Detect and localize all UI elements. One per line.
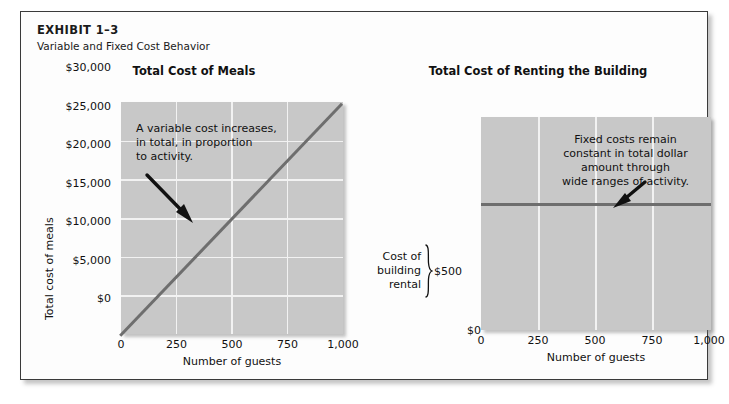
y-axis-label-meals: Total cost of meals <box>43 217 56 320</box>
curly-brace-icon <box>424 244 433 298</box>
annotation-variable-cost: A variable cost increases, in total, in … <box>136 122 286 164</box>
x-tick-rent-1000: 1,000 <box>693 334 725 347</box>
plot-area-meals: A variable cost increases, in total, in … <box>121 102 343 334</box>
y-tick-meals-30000: $30,000 <box>45 61 111 74</box>
x-tick-meals-250: 250 <box>166 338 187 351</box>
x-tick-meals-0: 0 <box>118 338 125 351</box>
y-tick-meals-20000: $20,000 <box>45 138 111 151</box>
plot-area-rent: Fixed costs remain constant in total dol… <box>481 117 711 330</box>
x-tick-rent-500: 500 <box>585 334 606 347</box>
exhibit-panel: EXHIBIT 1–3 Variable and Fixed Cost Beha… <box>20 11 708 380</box>
y-tick-meals-0: $0 <box>45 292 111 305</box>
x-tick-rent-750: 750 <box>642 334 663 347</box>
x-axis-label-rent: Number of guests <box>481 351 711 364</box>
exhibit-subtitle: Variable and Fixed Cost Behavior <box>37 40 210 52</box>
brace-label: Cost of building rental <box>377 250 421 292</box>
y-tick-meals-5000: $5,000 <box>45 253 111 266</box>
chart-title-rent: Total Cost of Renting the Building <box>373 64 703 78</box>
x-tick-meals-1000: 1,000 <box>327 338 359 351</box>
y-tick-meals-10000: $10,000 <box>45 215 111 228</box>
chart-total-cost-of-meals: Total Cost of Meals Total cost of meals … <box>29 64 359 364</box>
y-tick-meals-25000: $25,000 <box>45 99 111 112</box>
x-tick-meals-500: 500 <box>222 338 243 351</box>
x-tick-meals-750: 750 <box>277 338 298 351</box>
brace-value: $500 <box>434 265 462 278</box>
y-tick-rent-0: $0 <box>415 324 481 337</box>
chart-total-cost-of-renting-the-building: Total Cost of Renting the Building Cost … <box>373 64 703 364</box>
y-tick-meals-15000: $15,000 <box>45 176 111 189</box>
gridline-v-rent-250 <box>538 117 540 330</box>
annotation-arrow-icon-meals <box>141 170 211 232</box>
exhibit-number: EXHIBIT 1–3 <box>37 23 210 37</box>
x-axis-label-meals: Number of guests <box>121 355 343 368</box>
annotation-arrow-icon-rent <box>609 179 655 211</box>
exhibit-header: EXHIBIT 1–3 Variable and Fixed Cost Beha… <box>37 23 210 52</box>
x-tick-rent-250: 250 <box>528 334 549 347</box>
cost-of-building-rental-callout: Cost of building rental $500 <box>377 244 462 298</box>
gridline-h-10000 <box>121 257 343 259</box>
x-tick-rent-0: 0 <box>478 334 485 347</box>
fixed-cost-line <box>481 203 711 206</box>
